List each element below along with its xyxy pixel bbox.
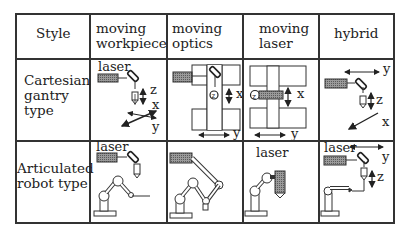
header-line: workpiece: [96, 36, 167, 51]
diagram-articulated-moving-workpiece: laser: [90, 141, 166, 223]
nozzle-icon: [134, 164, 140, 178]
mirror-icon: [127, 151, 139, 163]
header-moving-optics: moving optics: [172, 21, 222, 51]
laser-source-icon: [324, 156, 346, 165]
diagram-cartesian-hybrid: y z x: [319, 59, 394, 140]
diagram-cartesian-moving-workpiece: laser z x y: [90, 59, 166, 140]
row-label-line: Articulated: [17, 161, 94, 176]
x-axis-label: x: [236, 86, 242, 101]
diagram-articulated-moving-optics: [167, 141, 242, 223]
z-head-label: z: [212, 92, 216, 100]
robot-arm-icon: [245, 173, 275, 216]
header-hybrid: hybrid: [334, 26, 378, 41]
z-axis-label: z: [376, 92, 383, 107]
table-top-border: [15, 13, 395, 15]
header-moving-workpiece: moving workpiece: [96, 21, 167, 51]
z-axis-label: z: [150, 82, 157, 97]
laser-source-icon: [98, 74, 118, 82]
mirror-icon: [127, 70, 139, 82]
header-moving-laser: moving laser: [259, 21, 309, 51]
diagram-cartesian-moving-laser: z x y: [243, 59, 318, 140]
table-left-border: [15, 13, 17, 224]
nozzle-icon: [360, 96, 366, 108]
header-line: optics: [172, 36, 222, 51]
laser-source-icon: [97, 153, 117, 162]
row-label-line: type: [24, 103, 90, 118]
x-axis-label: x: [297, 86, 305, 101]
z-head-label: z: [252, 92, 256, 101]
laser-source-icon: [259, 91, 283, 99]
laser-source-icon: [173, 72, 192, 82]
y-axis-label: y: [151, 119, 160, 134]
x-axis-label: x: [152, 97, 160, 112]
row-label-articulated: Articulated robot type: [17, 161, 94, 191]
y-axis-label: y: [381, 149, 390, 164]
mirror-icon: [355, 78, 367, 90]
laser-source-icon: [325, 79, 347, 88]
x-axis-arrow: [122, 111, 156, 126]
laser-source-icon: [170, 153, 192, 163]
z-head-icon: z: [251, 91, 260, 101]
y-axis-label: y: [290, 126, 299, 140]
row-label-line: gantry: [24, 88, 90, 103]
y-axis-label: y: [382, 61, 391, 76]
laser-source-icon: [275, 171, 285, 193]
robot-arm-icon: [170, 158, 223, 218]
header-line: moving: [172, 21, 222, 36]
robot-arm-icon: [321, 187, 352, 216]
nozzle-icon: [361, 168, 367, 191]
laser-label: laser: [98, 59, 131, 74]
diagram-articulated-hybrid: laser y z: [319, 141, 394, 223]
z-axis-label: z: [377, 169, 384, 184]
row-label-line: robot type: [17, 176, 94, 191]
nozzle-icon: [132, 92, 138, 105]
robot-arm-icon: [94, 176, 134, 216]
laser-label: laser: [96, 141, 129, 154]
diagram-articulated-moving-laser: laser: [243, 141, 318, 223]
header-line: moving: [259, 21, 309, 36]
diagram-cartesian-moving-optics: z x y: [167, 59, 242, 140]
y-axis-label: y: [232, 125, 241, 140]
header-style: Style: [36, 26, 71, 41]
header-line: moving: [96, 21, 167, 36]
row-label-cartesian: Cartesian gantry type: [24, 73, 90, 118]
laser-label: laser: [324, 141, 357, 155]
x-axis-label: x: [382, 114, 390, 129]
row-label-line: Cartesian: [24, 73, 90, 88]
mirror-icon: [357, 152, 369, 164]
laser-label: laser: [256, 145, 289, 160]
header-line: laser: [259, 36, 309, 51]
x-axis-arrow: [349, 113, 378, 129]
